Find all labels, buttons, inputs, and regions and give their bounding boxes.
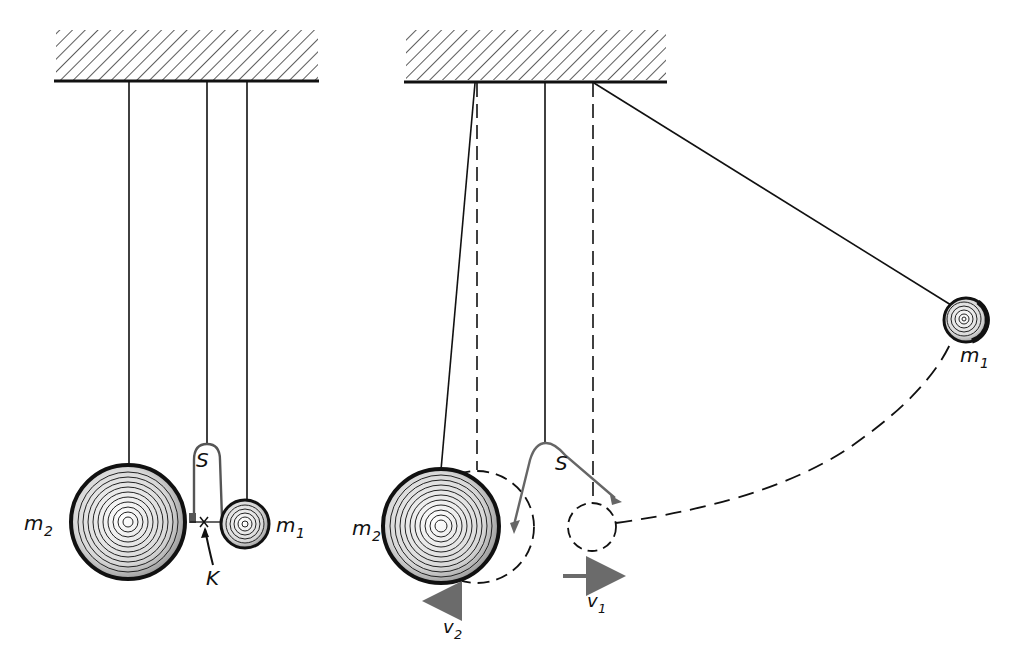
v2-subscript: 2: [454, 627, 462, 642]
m2-label-left: m: [24, 511, 43, 535]
ball-m2-left: [71, 465, 185, 579]
v2-label: v: [443, 616, 454, 637]
ball-m1-left: [221, 500, 269, 548]
m1-subscript-left: 1: [296, 525, 305, 541]
string-m1-deflected: [594, 83, 951, 305]
m2-subscript-right: 2: [372, 528, 381, 544]
ball-m2-right: [383, 469, 499, 583]
ball-m1-original-dashed: [568, 503, 616, 551]
left-panel: S K m 2 m 1: [24, 30, 319, 590]
ball-m1-right: [944, 298, 988, 342]
string-m2-deflected: [441, 83, 475, 470]
m1-label-left: m: [276, 513, 295, 537]
pendulum-diagram: S K m 2 m 1: [0, 0, 1011, 651]
spring-label-left: S: [196, 448, 209, 472]
ceiling-left: [54, 30, 319, 81]
v1-label: v: [587, 590, 598, 611]
thread-label: K: [206, 566, 221, 590]
m1-label-right: m: [960, 343, 979, 367]
v1-subscript: 1: [598, 601, 606, 616]
spring-label-right: S: [555, 451, 568, 475]
right-panel: S m 2 m 1 v 1 v 2: [352, 30, 989, 642]
m2-label-right: m: [352, 516, 371, 540]
ceiling-right: [404, 30, 667, 82]
m1-subscript-right: 1: [980, 355, 989, 371]
trajectory-arc-dashed: [616, 340, 952, 523]
m2-subscript-left: 2: [44, 523, 53, 539]
